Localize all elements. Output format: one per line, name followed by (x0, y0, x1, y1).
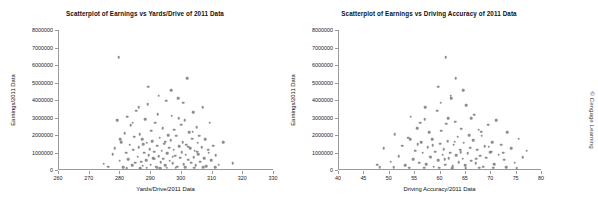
y-axis-tick-label: 1000000 (32, 150, 53, 156)
scatter-point (487, 123, 490, 126)
scatter-point (133, 135, 136, 138)
scatter-point (201, 106, 204, 109)
scatter-point (419, 121, 422, 124)
scatter-point (123, 132, 126, 135)
scatter-point (203, 157, 206, 160)
y-axis-tick-label: 3000000 (312, 115, 333, 121)
scatter-point (443, 158, 446, 161)
scatter-point (436, 109, 439, 112)
scatter-point (427, 146, 430, 149)
credit-wrap: © Cengage Learning (586, 60, 598, 180)
scatter-point (198, 135, 201, 138)
scatter-point (145, 159, 148, 162)
scatter-point (462, 89, 465, 92)
scatter-point (502, 152, 505, 155)
scatter-point (195, 126, 198, 129)
scatter-point (517, 137, 520, 140)
scatter-point (470, 159, 473, 162)
scatter-point (444, 163, 447, 166)
scatter-point (125, 167, 128, 170)
scatter-point (128, 143, 131, 146)
scatter-point (161, 127, 164, 130)
scatter-point (208, 121, 211, 124)
x-axis-tick-label: 45 (360, 175, 366, 181)
scatter-point (428, 131, 431, 134)
scatter-point (199, 160, 202, 163)
scatter-point (187, 146, 190, 149)
scatter-point (143, 151, 146, 154)
scatter-point (454, 121, 457, 124)
scatter-point (495, 119, 498, 122)
scatter-point (492, 166, 495, 169)
x-axis-tick-mark (541, 171, 542, 174)
scatter-point (196, 150, 199, 153)
scatter-point (182, 163, 185, 166)
plot-area-left (58, 30, 273, 170)
scatter-point (170, 89, 173, 92)
x-axis-tick-label: 270 (84, 175, 93, 181)
x-axis-tick-label: 60 (437, 175, 443, 181)
scatter-point (441, 153, 444, 156)
x-axis-tick-mark (89, 171, 90, 174)
scatter-point (193, 166, 196, 169)
scatter-point (465, 104, 468, 107)
scatter-point (460, 151, 463, 154)
x-axis-tick-label: 55 (411, 175, 417, 181)
x-axis-tick-label: 65 (462, 175, 468, 181)
scatter-point (184, 153, 187, 156)
scatter-point (431, 138, 434, 141)
x-axis-tick-mark (242, 171, 243, 174)
x-axis-tick-label: 310 (207, 175, 216, 181)
scatter-point (513, 161, 516, 164)
scatter-point (177, 97, 180, 100)
scatter-point (107, 166, 110, 169)
scatter-point (454, 77, 457, 80)
scatter-point (130, 124, 133, 127)
y-axis-tick-mark (55, 153, 58, 154)
scatter-point (170, 114, 173, 117)
chart-panel-left: Scatterplot of Earnings vs Yards/Drive o… (0, 0, 290, 211)
scatter-point (525, 149, 528, 152)
x-axis-tick-label: 75 (513, 175, 519, 181)
y-axis-tick-label: 7000000 (32, 45, 53, 51)
y-axis-tick-mark (335, 83, 338, 84)
chart-title-left: Scatterplot of Earnings vs Yards/Drive o… (0, 10, 290, 17)
x-axis-tick-label: 70 (487, 175, 493, 181)
scatter-point (184, 166, 187, 169)
scatter-point (434, 150, 437, 153)
scatter-point (404, 164, 407, 167)
x-axis-tick-mark (212, 171, 213, 174)
scatter-point (119, 160, 122, 163)
scatter-point (160, 149, 163, 152)
x-axis-title: Driving Accuracy/2011 Data (338, 186, 541, 192)
scatter-point (433, 166, 436, 169)
scatter-point (139, 167, 142, 170)
scatter-point (210, 159, 213, 162)
y-axis-tick-label: 7000000 (312, 45, 333, 51)
x-axis-tick-mark (181, 171, 182, 174)
y-axis-tick-mark (55, 100, 58, 101)
scatter-point (409, 115, 412, 118)
x-axis-tick-mark (150, 171, 151, 174)
scatter-point (416, 127, 419, 130)
scatter-point (447, 157, 450, 160)
x-axis-tick-label: 330 (269, 175, 278, 181)
scatter-point (117, 56, 120, 59)
scatter-point (231, 162, 234, 165)
scatter-point (456, 135, 459, 138)
scatter-point (500, 143, 503, 146)
y-axis-tick-label: 0 (330, 167, 333, 173)
scatter-point (165, 100, 168, 103)
scatter-point (418, 161, 421, 164)
chart-panel-right: Scatterplot of Earnings vs Driving Accur… (290, 0, 568, 211)
scatter-point (179, 156, 182, 159)
scatter-point (450, 97, 453, 100)
scatter-point (442, 148, 445, 151)
scatter-point (153, 150, 156, 153)
scatter-point (174, 166, 177, 169)
x-axis-tick-mark (363, 171, 364, 174)
scatter-point (138, 133, 141, 136)
y-axis-tick-label: 4000000 (312, 97, 333, 103)
scatter-point (472, 139, 475, 142)
scatter-point (164, 140, 167, 143)
